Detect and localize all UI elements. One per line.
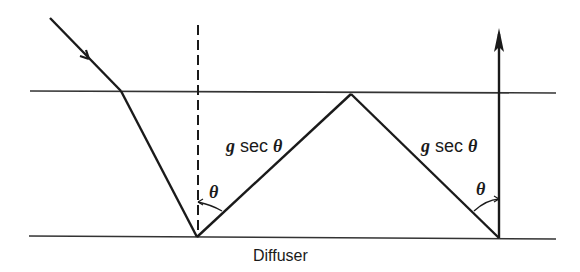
diffuser-surface-line — [29, 236, 556, 239]
angle-left-label: θ — [209, 182, 219, 202]
angle-arc-left — [198, 202, 222, 211]
reflected-ray-up — [197, 94, 351, 237]
refracted-ray — [121, 91, 197, 237]
top-surface-line — [30, 91, 556, 93]
incident-ray — [50, 18, 121, 91]
diffuser-label: Diffuser — [253, 247, 309, 264]
segment-left-label: g sec θ — [225, 136, 283, 156]
diagram-canvas: g sec θ g sec θ θ θ Diffuser — [0, 0, 580, 272]
reflected-ray-down — [351, 94, 499, 238]
angle-right-label: θ — [476, 179, 486, 199]
segment-right-label: g sec θ — [420, 136, 478, 156]
